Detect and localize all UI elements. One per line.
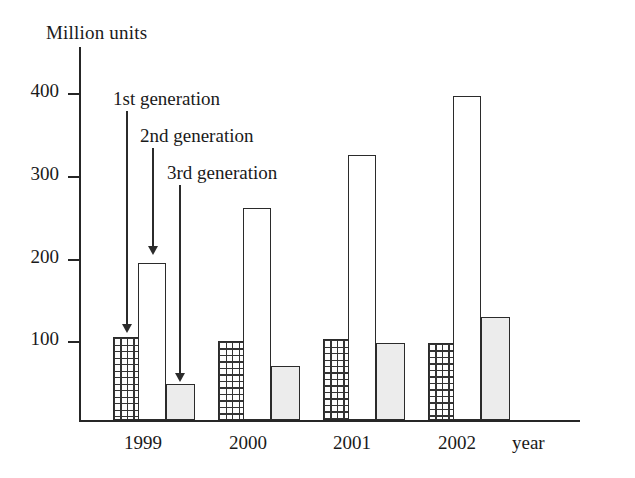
annotation-arrowhead-gen2 (148, 246, 158, 255)
x-axis-title: year (512, 432, 545, 454)
bar-2000-gen2[interactable] (243, 208, 271, 420)
bar-2002-gen2[interactable] (453, 96, 481, 420)
bars-layer (0, 0, 635, 420)
bar-1999-gen2[interactable] (138, 263, 166, 420)
annotation-label-gen1: 1st generation (113, 88, 220, 110)
bar-2001-gen2[interactable] (348, 155, 376, 420)
bar-2002-gen3[interactable] (481, 317, 510, 420)
x-tick-label-1999: 1999 (98, 432, 188, 454)
bar-1999-gen3[interactable] (166, 384, 195, 420)
x-tick-label-2002: 2002 (412, 432, 502, 454)
annotation-label-gen3: 3rd generation (167, 162, 277, 184)
annotation-arrowhead-gen3 (175, 373, 185, 382)
annotation-leader-gen3 (179, 185, 181, 375)
bar-2001-gen3[interactable] (376, 343, 405, 420)
annotation-arrowhead-gen1 (122, 324, 132, 333)
bar-2000-gen3[interactable] (271, 366, 300, 421)
annotation-leader-gen1 (126, 111, 128, 326)
bar-chart: Million units year 400 300 200 100 1999 (0, 0, 635, 478)
x-tick-label-2000: 2000 (203, 432, 293, 454)
annotation-leader-gen2 (152, 148, 154, 248)
x-tick-label-2001: 2001 (307, 432, 397, 454)
annotation-label-gen2: 2nd generation (140, 125, 253, 147)
x-axis-line (79, 420, 580, 422)
